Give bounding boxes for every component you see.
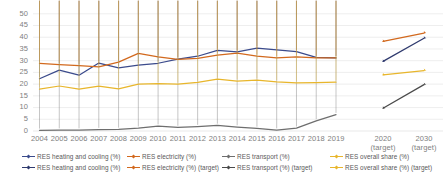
legend-item[interactable]: RES overall share (%) [330, 151, 445, 162]
legend-row-targets: RES heating and cooling (%)RES electrici… [22, 162, 447, 173]
legend-item[interactable]: RES transport (%) (target) [222, 162, 330, 173]
legend-label: RES electricity (%) (target) [142, 164, 219, 171]
target-series-line-3 [383, 69, 426, 75]
y-axis-tick: 5 [8, 115, 28, 123]
legend-label: RES heating and cooling (%) [37, 164, 120, 171]
x-axis-tick-target: 2020(target) [369, 134, 397, 152]
chart-canvas [0, 0, 447, 148]
x-axis-tick-target: 2030(target) [410, 134, 438, 152]
x-axis-tick: 2019 [323, 134, 349, 143]
plot-area [0, 0, 447, 148]
legend-marker-icon [127, 153, 140, 160]
legend-label: RES transport (%) (target) [237, 164, 313, 171]
renewable-energy-share-line-chart: 05101520253035404550 2004200520062007200… [0, 0, 447, 180]
legend-label: RES transport (%) [237, 153, 290, 160]
legend-item[interactable]: RES electricity (%) (target) [127, 162, 222, 173]
y-axis-tick: 10 [8, 103, 28, 111]
legend-item[interactable]: RES electricity (%) [127, 151, 222, 162]
legend-label: RES electricity (%) [142, 153, 196, 160]
legend-label: RES overall share (%) [345, 153, 409, 160]
legend-item[interactable]: RES heating and cooling (%) [22, 162, 127, 173]
y-axis-tick: 25 [8, 68, 28, 76]
y-axis-tick: 20 [8, 80, 28, 88]
legend-label: RES overall share (%) (target) [345, 164, 432, 171]
legend-row-actuals: RES heating and cooling (%)RES electrici… [22, 151, 447, 162]
y-axis-tick: 50 [8, 10, 28, 18]
legend-marker-icon [22, 153, 35, 160]
legend-label: RES heating and cooling (%) [37, 153, 120, 160]
legend-item[interactable]: RES heating and cooling (%) [22, 151, 127, 162]
legend-item[interactable]: RES transport (%) [222, 151, 330, 162]
x-axis-tick-year: 2020 [374, 134, 391, 143]
legend-marker-icon [330, 153, 343, 160]
y-axis-tick: 30 [8, 57, 28, 65]
y-axis-tick: 35 [8, 45, 28, 53]
x-axis-tick-year: 2030 [415, 134, 432, 143]
legend-marker-icon [330, 164, 343, 171]
y-axis-tick: 15 [8, 92, 28, 100]
chart-legend: RES heating and cooling (%)RES electrici… [22, 151, 447, 177]
legend-marker-icon [22, 164, 35, 171]
y-axis-tick: 0 [8, 127, 28, 135]
target-series-line-1 [383, 31, 426, 41]
legend-marker-icon [222, 164, 235, 171]
y-axis-tick: 40 [8, 33, 28, 41]
legend-item[interactable]: RES overall share (%) (target) [330, 162, 445, 173]
series-line-0 [40, 1, 337, 79]
legend-marker-icon [222, 153, 235, 160]
legend-marker-icon [127, 164, 140, 171]
series-line-1 [40, 1, 337, 67]
gridlines [33, 14, 443, 131]
y-axis-tick: 45 [8, 21, 28, 29]
